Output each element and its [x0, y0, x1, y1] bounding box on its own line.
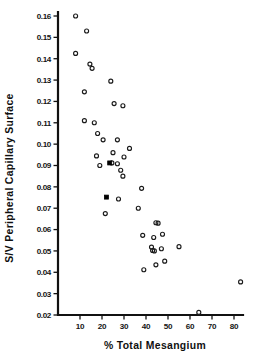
scatter-plot-canvas: 0.020.030.040.050.060.070.080.090.100.11… [0, 0, 257, 355]
data-point-open [98, 164, 102, 168]
data-point-open [239, 280, 243, 284]
data-point-open [154, 263, 158, 267]
x-tick-label: 60 [186, 322, 195, 331]
data-point-filled [104, 195, 108, 199]
y-tick-label: 0.11 [37, 119, 52, 128]
y-tick-label: 0.06 [37, 225, 52, 234]
data-point-open [82, 90, 86, 94]
data-point-open [152, 235, 156, 239]
data-point-open [115, 138, 119, 142]
data-point-open [90, 66, 94, 70]
data-point-open [121, 174, 125, 178]
data-point-open [128, 146, 132, 150]
y-tick-label: 0.15 [37, 33, 52, 42]
data-point-open [122, 155, 126, 159]
scatter-plot-figure: 0.020.030.040.050.060.070.080.090.100.11… [0, 0, 257, 355]
x-tick-label: 30 [120, 322, 129, 331]
data-point-open [88, 62, 92, 66]
data-point-open [112, 102, 116, 106]
data-point-open [117, 197, 121, 201]
y-tick-label: 0.09 [37, 161, 52, 170]
data-point-open [92, 121, 96, 125]
data-point-open [74, 14, 78, 18]
data-point-open [115, 162, 119, 166]
data-point-open [119, 168, 123, 172]
data-point-open [141, 233, 145, 237]
x-axis-title: % Total Mesangium [104, 340, 206, 351]
data-point-open [103, 212, 107, 216]
x-axis-tick-labels: 1020304050607080 [76, 322, 239, 331]
data-point-open [109, 79, 113, 83]
data-point-open [121, 104, 125, 108]
axis-spine [58, 12, 243, 315]
x-tick-label: 20 [98, 322, 107, 331]
y-tick-label: 0.02 [37, 311, 52, 320]
data-point-open [177, 245, 181, 249]
data-point-open [136, 206, 140, 210]
y-tick-label: 0.13 [37, 76, 52, 85]
data-point-open [96, 131, 100, 135]
y-tick-label: 0.10 [37, 140, 52, 149]
data-point-open [101, 138, 105, 142]
x-tick-label: 40 [142, 322, 151, 331]
y-tick-label: 0.16 [37, 12, 52, 21]
y-tick-label: 0.12 [37, 97, 52, 106]
data-point-open [82, 119, 86, 123]
data-point-open [85, 29, 89, 33]
data-point-open [161, 232, 165, 236]
y-axis-tick-labels: 0.020.030.040.050.060.070.080.090.100.11… [37, 12, 52, 320]
y-tick-label: 0.07 [37, 204, 52, 213]
y-axis-title: S/V Peripheral Capillary Surface [4, 93, 15, 262]
y-tick-label: 0.05 [37, 247, 52, 256]
data-point-open [197, 310, 201, 314]
data-point-filled [108, 161, 112, 165]
x-tick-label: 50 [164, 322, 173, 331]
data-point-open [111, 151, 115, 155]
y-tick-label: 0.04 [37, 268, 52, 277]
data-point-group [74, 14, 243, 314]
y-tick-label: 0.03 [37, 290, 52, 299]
x-tick-label: 70 [208, 322, 217, 331]
y-tick-label: 0.08 [37, 183, 52, 192]
y-tick-label: 0.14 [37, 55, 52, 64]
data-point-open [140, 186, 144, 190]
data-point-open [142, 268, 146, 272]
x-tick-label: 80 [230, 322, 239, 331]
x-tick-label: 10 [76, 322, 85, 331]
data-point-open [159, 247, 163, 251]
data-point-open [163, 259, 167, 263]
data-point-open [74, 51, 78, 55]
data-point-open [95, 154, 99, 158]
